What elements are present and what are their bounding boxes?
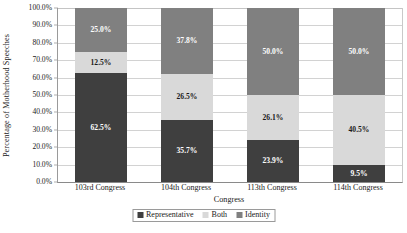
legend-item[interactable]: Both xyxy=(203,211,228,219)
bar-segment-label: 62.5% xyxy=(91,124,112,132)
y-axis-tick-label: 90.0% xyxy=(32,22,52,30)
y-axis-tick-label: 60.0% xyxy=(32,74,52,82)
y-axis-tick-label: 20.0% xyxy=(32,143,52,151)
y-axis-title-text: Percentage of Motherhood Speeches xyxy=(3,33,12,156)
x-axis-tick-label: 103rd Congress xyxy=(57,184,143,192)
bar-segment-label: 40.5% xyxy=(349,126,370,134)
bar-segment-label: 26.1% xyxy=(263,114,284,122)
x-axis-tick-label: 113th Congress xyxy=(229,184,315,192)
legend-swatch-icon xyxy=(236,212,242,218)
y-axis-tick-label: 30.0% xyxy=(32,126,52,134)
bar-segment[interactable]: 12.5% xyxy=(75,52,127,74)
x-axis-tick-label: 114th Congress xyxy=(315,184,401,192)
bar-segment[interactable]: 62.5% xyxy=(75,73,127,182)
bar-segment[interactable]: 50.0% xyxy=(333,8,385,95)
bar-series-layer: 62.5%12.5%25.0%35.7%26.5%37.8%23.9%26.1%… xyxy=(58,8,402,182)
y-axis-tick-label: 100.0% xyxy=(29,4,52,12)
legend-item[interactable]: Identity xyxy=(236,211,270,219)
stacked-bar-chart: Percentage of Motherhood Speeches 0.0%10… xyxy=(0,0,407,233)
bar-group[interactable]: 9.5%40.5%50.0% xyxy=(333,8,385,182)
bar-segment[interactable]: 23.9% xyxy=(247,140,299,182)
legend-swatch-icon xyxy=(137,212,143,218)
bar-group[interactable]: 35.7%26.5%37.8% xyxy=(161,8,213,182)
bar-segment-label: 50.0% xyxy=(263,48,284,56)
bar-segment-label: 37.8% xyxy=(177,37,198,45)
bar-stack: 62.5%12.5%25.0% xyxy=(75,8,127,182)
bar-segment[interactable]: 40.5% xyxy=(333,95,385,165)
legend-swatch-icon xyxy=(203,212,209,218)
y-axis-tick-label: 0.0% xyxy=(36,178,52,186)
x-axis-title: Congress xyxy=(57,195,401,204)
plot-area: 62.5%12.5%25.0%35.7%26.5%37.8%23.9%26.1%… xyxy=(57,8,403,183)
x-axis-tick-label: 104th Congress xyxy=(143,184,229,192)
legend-item[interactable]: Representative xyxy=(137,211,194,219)
legend-label: Representative xyxy=(146,211,194,219)
bar-stack: 35.7%26.5%37.8% xyxy=(161,8,213,182)
y-axis-tick-labels: 0.0%10.0%20.0%30.0%40.0%50.0%60.0%70.0%8… xyxy=(14,8,54,182)
bar-segment[interactable]: 37.8% xyxy=(161,8,213,74)
legend-label: Identity xyxy=(245,211,270,219)
y-axis-tick-label: 50.0% xyxy=(32,91,52,99)
bar-segment-label: 26.5% xyxy=(177,93,198,101)
bar-segment-label: 35.7% xyxy=(177,147,198,155)
bar-segment-label: 23.9% xyxy=(263,157,284,165)
bar-segment[interactable]: 25.0% xyxy=(75,8,127,52)
chart-legend: RepresentativeBothIdentity xyxy=(132,209,275,222)
y-axis-tick-label: 80.0% xyxy=(32,39,52,47)
bar-group[interactable]: 23.9%26.1%50.0% xyxy=(247,8,299,182)
bar-stack: 9.5%40.5%50.0% xyxy=(333,8,385,182)
y-axis-tick-label: 70.0% xyxy=(32,56,52,64)
y-axis-tick-label: 10.0% xyxy=(32,161,52,169)
bar-stack: 23.9%26.1%50.0% xyxy=(247,8,299,182)
bar-segment[interactable]: 26.1% xyxy=(247,95,299,140)
bar-segment[interactable]: 50.0% xyxy=(247,8,299,95)
y-axis-title: Percentage of Motherhood Speeches xyxy=(0,0,14,190)
bar-segment[interactable]: 9.5% xyxy=(333,165,385,182)
bar-segment-label: 9.5% xyxy=(350,170,367,178)
bar-segment-label: 12.5% xyxy=(91,59,112,67)
bar-segment-label: 50.0% xyxy=(349,48,370,56)
bar-segment[interactable]: 26.5% xyxy=(161,74,213,120)
y-axis-tick-label: 40.0% xyxy=(32,109,52,117)
bar-group[interactable]: 62.5%12.5%25.0% xyxy=(75,8,127,182)
bar-segment-label: 25.0% xyxy=(91,26,112,34)
bar-segment[interactable]: 35.7% xyxy=(161,120,213,182)
legend-label: Both xyxy=(212,211,228,219)
